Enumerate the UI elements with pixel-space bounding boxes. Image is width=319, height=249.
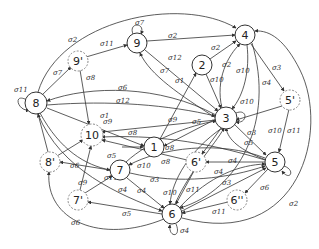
edge-label: σ3 <box>247 129 257 137</box>
svg-text:8': 8' <box>45 156 55 169</box>
node-6-prime: 6' <box>186 152 206 172</box>
edge-label: σ10 <box>236 67 250 75</box>
svg-text:9: 9 <box>134 37 141 50</box>
edge-label: σ5 <box>122 210 132 218</box>
edges <box>18 14 311 235</box>
node-7-prime: 7' <box>68 190 88 210</box>
node-2: 2 <box>192 55 212 75</box>
node-9-prime: 9' <box>68 51 88 71</box>
svg-text:3: 3 <box>223 112 230 125</box>
edge-label: σ8 <box>128 129 138 137</box>
edge-label: σ6 <box>71 219 81 227</box>
edge-label: σ4 <box>262 79 271 87</box>
edge-label: σ3 <box>222 179 232 187</box>
edge-label: σ1 <box>175 77 184 85</box>
node-3: 3 <box>215 107 237 129</box>
svg-text:5': 5' <box>285 94 295 107</box>
edge-label: σ12 <box>168 54 182 62</box>
state-diagram: σ2 σ11 σ7 σ2 σ7 σ8 σ11 σ6 σ12 σ1 σ12 σ7 … <box>0 0 319 249</box>
edge-label: σ2 <box>211 44 221 52</box>
svg-text:6': 6' <box>191 156 201 169</box>
edge-label: σ10 <box>240 98 254 106</box>
edge-label: σ9 <box>168 116 178 124</box>
node-8: 8 <box>25 92 47 114</box>
node-8-prime: 8' <box>40 152 60 172</box>
svg-text:4: 4 <box>242 29 249 42</box>
node-4: 4 <box>235 25 255 45</box>
edge-label: σ4 <box>214 168 223 176</box>
edge-label: σ8 <box>86 74 96 82</box>
edge-label: σ3 <box>272 64 282 72</box>
edge-label: σ5 <box>107 152 117 160</box>
edge-label: σ6 <box>118 84 128 92</box>
svg-text:9': 9' <box>73 55 83 68</box>
edge-label: σ2 <box>68 36 78 44</box>
edge-label: σ5 <box>244 139 254 147</box>
edge-label: σ8 <box>161 158 171 166</box>
edge-label: σ11 <box>186 186 200 194</box>
edge-label: σ6 <box>260 184 270 192</box>
node-7: 7 <box>110 160 130 180</box>
edge-label: σ11 <box>14 86 28 94</box>
edge-label: σ2 <box>168 32 178 40</box>
svg-text:6'': 6'' <box>230 194 243 207</box>
node-6-double-prime: 6'' <box>227 190 247 210</box>
svg-text:10: 10 <box>85 129 99 142</box>
edge-label: σ2 <box>222 61 232 69</box>
node-9: 9 <box>127 33 147 53</box>
edge-label: σ6 <box>70 162 80 170</box>
edge-label: σ4 <box>180 227 189 235</box>
edge-label: σ4 <box>118 186 127 194</box>
edge-label: σ4 <box>137 187 146 195</box>
svg-text:6: 6 <box>169 208 176 221</box>
node-5: 5 <box>265 152 285 172</box>
node-10: 10 <box>81 124 103 146</box>
edge-label: σ9 <box>103 118 113 126</box>
edge-label: σ11 <box>287 127 301 135</box>
node-5-prime: 5' <box>280 90 300 110</box>
edge-label: σ10 <box>163 189 177 197</box>
edge-label: σ11 <box>100 40 114 48</box>
svg-text:5: 5 <box>272 156 279 169</box>
edge-label: σ4 <box>228 157 237 165</box>
edge-label: σ12 <box>116 97 130 105</box>
svg-text:8: 8 <box>33 97 40 110</box>
svg-text:7': 7' <box>73 194 83 207</box>
edge-label: σ10 <box>268 127 282 135</box>
node-6: 6 <box>162 204 182 224</box>
edge-label: σ7 <box>160 67 170 75</box>
edge-label: σ9 <box>78 179 88 187</box>
svg-text:2: 2 <box>199 59 206 72</box>
node-1: 1 <box>144 137 164 157</box>
edge-label: σ2 <box>289 200 299 208</box>
edge-label: σ10 <box>137 162 151 170</box>
edge-label: σ3 <box>150 176 160 184</box>
edge-label: σ7 <box>135 19 145 27</box>
edge-label: σ7 <box>53 69 63 77</box>
svg-text:7: 7 <box>117 164 124 177</box>
svg-text:1: 1 <box>151 141 158 154</box>
edge-label: σ8 <box>165 144 175 152</box>
edge-label: σ11 <box>212 208 226 216</box>
edge-label: σ10 <box>210 76 224 84</box>
edge-label: σ5 <box>192 118 202 126</box>
